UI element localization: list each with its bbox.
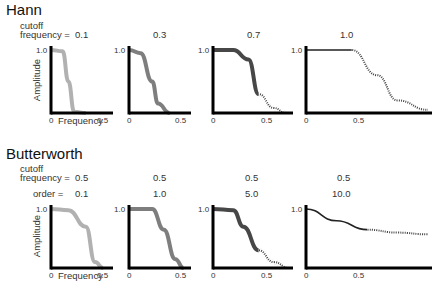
filter-plots: 1.000.51.000.51.000.51.000.51.000.51.000… bbox=[0, 0, 436, 290]
x-tick-05: 0.5 bbox=[175, 271, 187, 280]
x-tick-0: 0 bbox=[304, 116, 309, 125]
x-tick-05: 0.5 bbox=[175, 116, 187, 125]
x-tick-0: 0 bbox=[211, 116, 216, 125]
x-tick-05: 0.5 bbox=[97, 271, 109, 280]
y-tick-1: 1.0 bbox=[114, 205, 126, 214]
response-curve bbox=[129, 209, 184, 268]
y-tick-1: 1.0 bbox=[36, 46, 48, 55]
x-tick-05: 0.5 bbox=[261, 271, 273, 280]
response-curve bbox=[51, 209, 103, 268]
y-tick-1: 1.0 bbox=[291, 205, 303, 214]
x-tick-0: 0 bbox=[49, 271, 54, 280]
y-tick-1: 1.0 bbox=[198, 46, 210, 55]
x-tick-0: 0 bbox=[49, 116, 54, 125]
y-tick-1: 1.0 bbox=[36, 205, 48, 214]
y-tick-1: 1.0 bbox=[291, 46, 303, 55]
response-curve bbox=[213, 50, 286, 113]
response-curve bbox=[129, 50, 170, 113]
y-tick-1: 1.0 bbox=[198, 205, 210, 214]
x-tick-0: 0 bbox=[211, 271, 216, 280]
y-tick-1: 1.0 bbox=[114, 46, 126, 55]
x-tick-0: 0 bbox=[304, 271, 309, 280]
x-tick-05: 0.5 bbox=[353, 116, 365, 125]
x-tick-05: 0.5 bbox=[353, 271, 365, 280]
x-tick-0: 0 bbox=[127, 271, 132, 280]
x-tick-0: 0 bbox=[127, 116, 132, 125]
x-tick-05: 0.5 bbox=[261, 116, 273, 125]
response-curve bbox=[51, 50, 86, 113]
x-tick-05: 0.5 bbox=[97, 116, 109, 125]
response-curve bbox=[213, 209, 289, 268]
